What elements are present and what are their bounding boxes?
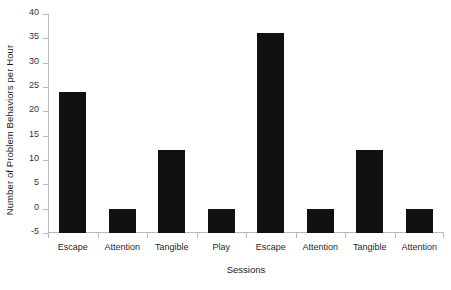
y-axis-tick-mark bbox=[43, 160, 48, 161]
y-axis-title: Number of Problem Behaviors per Hour bbox=[2, 10, 18, 250]
y-axis-tick-mark bbox=[43, 111, 48, 112]
y-axis-tick-mark bbox=[43, 184, 48, 185]
y-axis-tick-label: 40 bbox=[29, 7, 39, 17]
y-axis-tick-label: -5 bbox=[31, 226, 39, 236]
x-axis-tick-mark bbox=[443, 233, 444, 238]
x-axis-category-label: Escape bbox=[48, 242, 98, 252]
y-axis-line bbox=[48, 14, 49, 233]
bar bbox=[307, 209, 334, 233]
y-axis-tick-label: 15 bbox=[29, 129, 39, 139]
bar-chart: Number of Problem Behaviors per Hour -50… bbox=[0, 0, 451, 290]
x-axis-category-label: Escape bbox=[246, 242, 296, 252]
bar bbox=[109, 209, 136, 233]
bar bbox=[208, 209, 235, 233]
y-axis-tick-mark bbox=[43, 38, 48, 39]
y-axis-tick-label: 0 bbox=[34, 202, 39, 212]
x-axis-tick-mark bbox=[98, 233, 99, 238]
x-axis-tick-mark bbox=[48, 233, 49, 238]
y-axis-tick-label: 5 bbox=[34, 177, 39, 187]
x-axis-tick-mark bbox=[246, 233, 247, 238]
y-axis-tick-label: 25 bbox=[29, 80, 39, 90]
x-axis-category-label: Attention bbox=[98, 242, 148, 252]
x-axis-tick-mark bbox=[345, 233, 346, 238]
plot-area: -50510152025303540 EscapeAttentionTangib… bbox=[48, 14, 444, 233]
x-axis-category-label: Attention bbox=[395, 242, 445, 252]
x-axis-category-label: Play bbox=[197, 242, 247, 252]
x-axis-tick-mark bbox=[296, 233, 297, 238]
x-axis-title: Sessions bbox=[48, 264, 444, 275]
x-axis-tick-mark bbox=[197, 233, 198, 238]
x-axis-tick-mark bbox=[395, 233, 396, 238]
y-axis-tick-label: 10 bbox=[29, 153, 39, 163]
bar bbox=[158, 150, 185, 233]
y-axis-tick-mark bbox=[43, 63, 48, 64]
y-axis-tick-mark bbox=[43, 14, 48, 15]
y-axis-tick-mark bbox=[43, 209, 48, 210]
x-axis-category-label: Tangible bbox=[147, 242, 197, 252]
y-axis-tick-label: 20 bbox=[29, 104, 39, 114]
bar bbox=[257, 33, 284, 233]
y-axis-tick-mark bbox=[43, 136, 48, 137]
bar bbox=[406, 209, 433, 233]
bar bbox=[356, 150, 383, 233]
y-axis-tick-mark bbox=[43, 87, 48, 88]
x-axis-category-label: Attention bbox=[296, 242, 346, 252]
bar bbox=[59, 92, 86, 233]
y-axis-tick-label: 35 bbox=[29, 31, 39, 41]
y-axis-tick-label: 30 bbox=[29, 56, 39, 66]
x-axis-tick-mark bbox=[147, 233, 148, 238]
x-axis-category-label: Tangible bbox=[345, 242, 395, 252]
